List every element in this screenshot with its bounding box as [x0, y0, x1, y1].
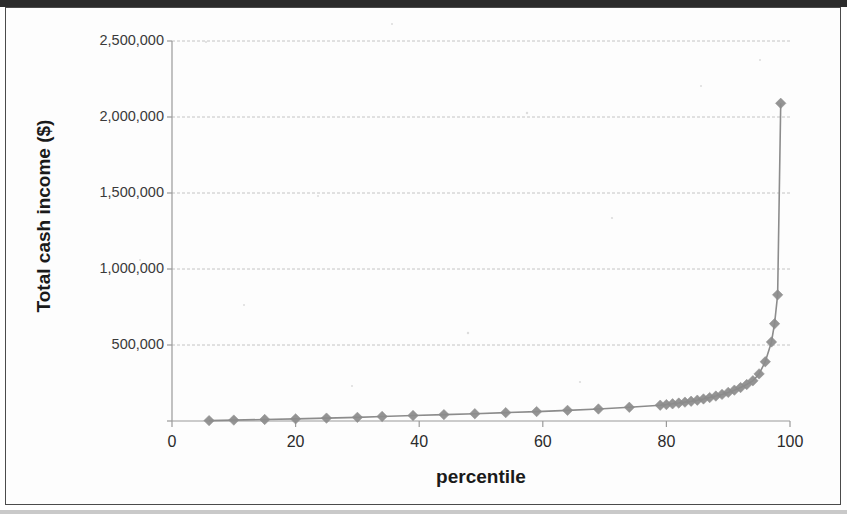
x-tick-label: 100 [760, 433, 820, 451]
data-point-marker[interactable] [624, 402, 634, 412]
data-point-marker[interactable] [531, 406, 541, 416]
screenshot-root: 500,0001,000,0001,500,0002,000,0002,500,… [0, 0, 847, 514]
data-point-marker[interactable] [501, 407, 511, 417]
y-axis-title: Total cash income ($) [33, 76, 55, 356]
chart-plot-container: 500,0001,000,0001,500,0002,000,0002,500,… [0, 0, 847, 514]
data-point-marker[interactable] [772, 290, 782, 300]
axis-ticks-group [167, 41, 790, 427]
data-point-marker[interactable] [439, 409, 449, 419]
x-tick-label: 40 [389, 433, 449, 451]
data-point-marker[interactable] [593, 404, 603, 414]
y-tick-label: 2,000,000 [68, 108, 164, 124]
y-tick-label: 1,500,000 [68, 184, 164, 200]
x-tick-label: 80 [636, 433, 696, 451]
data-point-marker[interactable] [321, 413, 331, 423]
y-tick-label: 1,000,000 [68, 260, 164, 276]
y-tick-label: 2,500,000 [68, 32, 164, 48]
y-tick-label: 500,000 [68, 336, 164, 352]
data-point-marker[interactable] [290, 414, 300, 424]
x-tick-label: 60 [513, 433, 573, 451]
data-point-marker[interactable] [766, 337, 776, 347]
data-point-marker[interactable] [760, 357, 770, 367]
x-tick-label: 0 [142, 433, 202, 451]
data-point-marker[interactable] [562, 405, 572, 415]
data-point-marker[interactable] [260, 414, 270, 424]
data-series-group [204, 98, 786, 426]
data-point-marker[interactable] [229, 415, 239, 425]
data-point-marker[interactable] [769, 319, 779, 329]
axis-lines-group [172, 41, 790, 421]
x-tick-label: 20 [266, 433, 326, 451]
data-point-marker[interactable] [377, 411, 387, 421]
data-point-marker[interactable] [776, 98, 786, 108]
x-axis-title: percentile [172, 466, 790, 488]
data-point-marker[interactable] [470, 409, 480, 419]
gridlines-group [172, 41, 790, 345]
data-point-marker[interactable] [408, 410, 418, 420]
series-line-0 [209, 103, 781, 420]
data-point-marker[interactable] [204, 415, 214, 425]
